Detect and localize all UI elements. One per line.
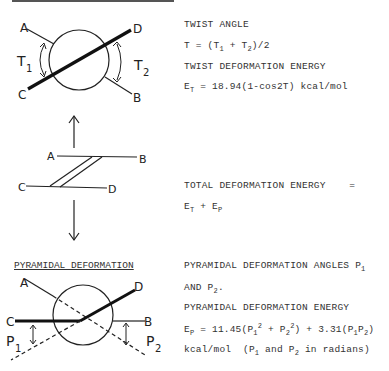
total-energy-label: TOTAL DEFORMATION ENERGY = <box>184 180 355 191</box>
pyramidal-heading: PYRAMIDAL DEFORMATION <box>14 260 134 271</box>
pyr-label-b: B <box>144 315 152 329</box>
svg-text:2: 2 <box>143 67 149 78</box>
pyramidal-units-note: kcal/mol (P1 and P2 in radians) <box>184 344 370 357</box>
label-d: D <box>133 22 142 36</box>
up-arrow-icon <box>69 116 79 148</box>
side-label-c: C <box>18 181 26 194</box>
label-b: B <box>133 91 141 105</box>
label-t2: T <box>133 57 143 73</box>
pyr-label-a: A <box>20 276 29 290</box>
twist-angle-label: TWIST ANGLE <box>184 19 249 30</box>
pyramidal-angles-label: PYRAMIDAL DEFORMATION ANGLES P1 <box>184 260 365 273</box>
svg-text:1: 1 <box>15 343 21 354</box>
pyramidal-angles-label-2: AND P2. <box>184 282 224 295</box>
side-view-double-bond <box>26 156 137 188</box>
pyr-label-d: D <box>134 280 143 294</box>
pyramidal-newman-projection <box>11 279 145 360</box>
total-energy-formula: ET + EP <box>184 201 222 214</box>
side-label-a: A <box>47 150 55 163</box>
side-label-b: B <box>139 153 147 166</box>
label-t1: T <box>16 53 26 69</box>
svg-text:2: 2 <box>155 343 161 354</box>
twist-energy-label: TWIST DEFORMATION ENERGY <box>184 61 326 72</box>
label-p2: P <box>146 333 154 349</box>
svg-text:1: 1 <box>26 63 32 74</box>
pyramidal-energy-label: PYRAMIDAL DEFORMATION ENERGY <box>184 302 349 313</box>
label-c: C <box>18 88 26 102</box>
pyr-label-c: C <box>6 315 14 329</box>
side-label-d: D <box>108 183 116 196</box>
twist-angle-formula: T = (T1 + T2)/2 <box>184 40 270 53</box>
pyramidal-energy-formula: EP = 11.45(P12 + P22) + 3.31(P1P2) <box>184 322 374 337</box>
label-p1: P <box>6 333 14 349</box>
twist-newman-projection <box>27 29 132 94</box>
label-a: A <box>20 21 29 35</box>
twist-energy-formula: ET = 18.94(1-cos2T) kcal/mol <box>184 81 348 94</box>
down-arrow-icon <box>69 200 79 240</box>
